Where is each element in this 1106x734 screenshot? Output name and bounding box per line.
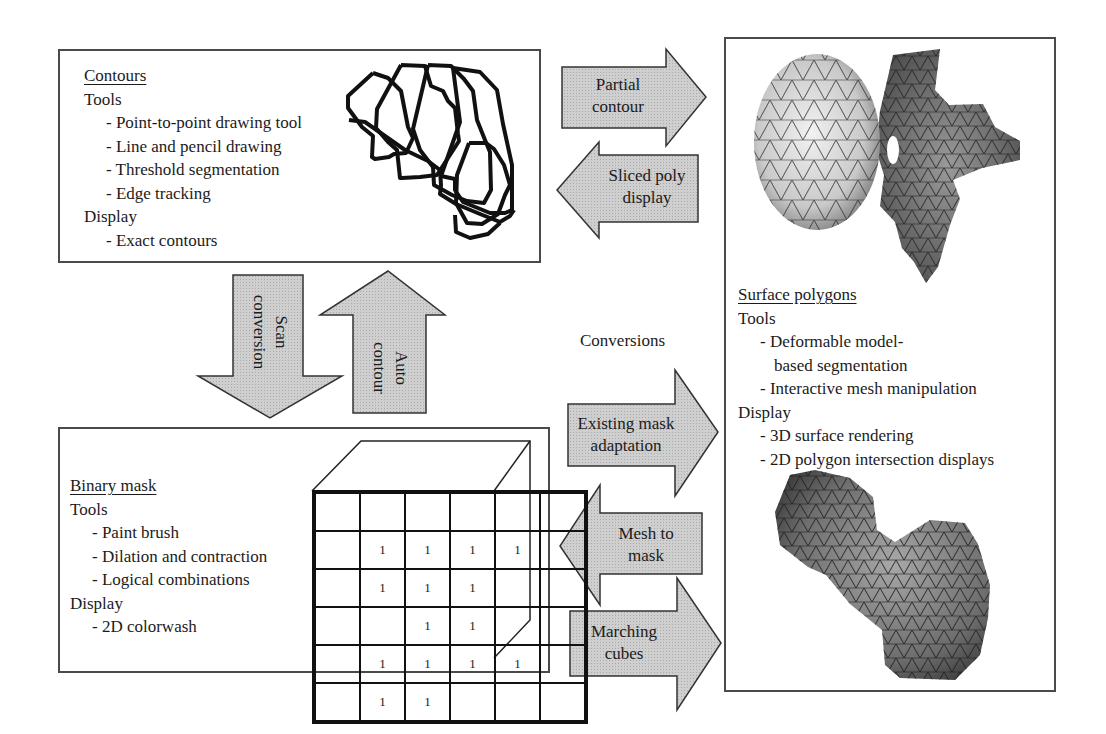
grid-cell xyxy=(495,683,540,722)
grid-cell xyxy=(540,492,586,531)
contours-tool-item: - Threshold segmentation xyxy=(84,158,302,182)
grid-row: 111 xyxy=(314,569,586,607)
label-line: cubes xyxy=(574,643,674,665)
grid-cell: 1 xyxy=(405,607,450,645)
conversions-label: Conversions xyxy=(580,331,665,351)
marching-cubes-label: Marching cubes xyxy=(574,621,674,665)
binary-mask-display-heading: Display xyxy=(70,592,267,616)
contours-text: Contours Tools - Point-to-point drawing … xyxy=(84,64,302,252)
grid-cell xyxy=(540,531,586,569)
grid-cell xyxy=(450,492,495,531)
contours-display-heading: Display xyxy=(84,205,302,229)
grid-cell: 1 xyxy=(450,531,495,569)
grid-cell xyxy=(495,607,540,645)
existing-mask-adaptation-label: Existing mask adaptation xyxy=(568,413,684,457)
contours-tool-item: - Edge tracking xyxy=(84,182,302,206)
grid-cell xyxy=(314,492,360,531)
surface-polygons-title: Surface polygons xyxy=(738,283,994,307)
label-line: Existing mask xyxy=(568,413,684,435)
grid-cell: 1 xyxy=(405,569,450,607)
grid-cell: 1 xyxy=(405,531,450,569)
binary-mask-tool-item: - Dilation and contraction xyxy=(70,545,267,569)
grid-cell xyxy=(314,607,360,645)
label-line: contour xyxy=(368,318,390,418)
grid-cell xyxy=(495,569,540,607)
sliced-poly-display-label: Sliced poly display xyxy=(592,165,702,209)
contours-tool-item: - Line and pencil drawing xyxy=(84,135,302,159)
grid-cell xyxy=(405,492,450,531)
surface-polygons-tool-item: based segmentation xyxy=(738,354,994,378)
label-line: display xyxy=(592,187,702,209)
grid-cell: 1 xyxy=(450,645,495,683)
grid-cell: 1 xyxy=(495,645,540,683)
femur-mesh-image xyxy=(775,470,990,680)
grid-cell: 1 xyxy=(405,683,450,722)
grid-cell: 1 xyxy=(360,569,405,607)
grid-row: 1111 xyxy=(314,645,586,683)
grid-cell xyxy=(540,683,586,722)
grid-row: 1111 xyxy=(314,531,586,569)
surface-polygons-display-item: - 3D surface rendering xyxy=(738,424,994,448)
grid-cell: 1 xyxy=(360,531,405,569)
grid-cell xyxy=(540,569,586,607)
auto-contour-label: Auto contour xyxy=(368,318,412,418)
grid-row xyxy=(314,492,586,531)
surface-polygons-tool-item: - Deformable model- xyxy=(738,330,994,354)
grid-cell xyxy=(314,569,360,607)
binary-mask-tool-item: - Logical combinations xyxy=(70,568,267,592)
grid-cell: 1 xyxy=(360,645,405,683)
scan-conversion-label: Scan conversion xyxy=(248,282,292,382)
surface-polygons-tool-item: - Interactive mesh manipulation xyxy=(738,377,994,401)
surface-polygons-display-item: - 2D polygon intersection displays xyxy=(738,448,994,472)
label-line: contour xyxy=(568,96,668,118)
grid-row: 11 xyxy=(314,607,586,645)
contours-title: Contours xyxy=(84,64,302,88)
contours-display-item: - Exact contours xyxy=(84,229,302,253)
grid-cell xyxy=(495,492,540,531)
surface-polygons-text: Surface polygons Tools - Deformable mode… xyxy=(738,283,994,471)
grid-cell: 1 xyxy=(405,645,450,683)
grid-row: 11 xyxy=(314,683,586,722)
surface-polygons-tools-heading: Tools xyxy=(738,307,994,331)
label-line: mask xyxy=(596,545,696,567)
contour-stack-illustration xyxy=(348,65,514,238)
label-line: Sliced poly xyxy=(592,165,702,187)
grid-cell: 1 xyxy=(450,569,495,607)
vertebra-mesh-image xyxy=(754,49,1020,283)
contours-tools-heading: Tools xyxy=(84,88,302,112)
grid-cell: 1 xyxy=(360,683,405,722)
grid-cell xyxy=(360,607,405,645)
binary-mask-grid: 1111 111 11 1111 11 xyxy=(312,490,588,724)
grid-cell xyxy=(360,492,405,531)
surface-polygons-display-heading: Display xyxy=(738,401,994,425)
binary-mask-tool-item: - Paint brush xyxy=(70,521,267,545)
grid-cell xyxy=(314,645,360,683)
binary-mask-title: Binary mask xyxy=(70,474,267,498)
label-line: Mesh to xyxy=(596,523,696,545)
grid-cell xyxy=(314,683,360,722)
binary-mask-display-item: - 2D colorwash xyxy=(70,615,267,639)
mesh-to-mask-label: Mesh to mask xyxy=(596,523,696,567)
label-line: Partial xyxy=(568,74,668,96)
binary-mask-tools-heading: Tools xyxy=(70,498,267,522)
grid-cell: 1 xyxy=(450,607,495,645)
grid-cell: 1 xyxy=(495,531,540,569)
partial-contour-label: Partial contour xyxy=(568,74,668,118)
label-line: Marching xyxy=(574,621,674,643)
binary-mask-text: Binary mask Tools - Paint brush - Dilati… xyxy=(70,474,267,639)
contours-tool-item: - Point-to-point drawing tool xyxy=(84,111,302,135)
label-line: adaptation xyxy=(568,435,684,457)
label-line: Scan xyxy=(270,282,292,382)
label-line: Auto xyxy=(390,318,412,418)
grid-cell xyxy=(450,683,495,722)
grid-cell xyxy=(314,531,360,569)
label-line: conversion xyxy=(248,282,270,382)
